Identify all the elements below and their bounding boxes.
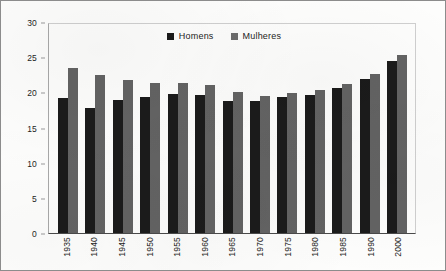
- x-tick-label: 1965: [227, 237, 237, 257]
- bar-group: [219, 24, 246, 233]
- bar: [68, 68, 78, 233]
- x-tick-label: 1970: [255, 237, 265, 257]
- bar: [250, 101, 260, 233]
- bar-group: [54, 24, 81, 233]
- legend-swatch-icon: [167, 33, 174, 40]
- x-tick-cell: 1950: [136, 235, 164, 271]
- y-tick-label: 25: [27, 53, 37, 63]
- bar-group: [246, 24, 273, 233]
- x-tick-cell: 1935: [53, 235, 81, 271]
- y-axis: 302520151050: [1, 1, 45, 271]
- legend-swatch-icon: [231, 33, 238, 40]
- y-tick-mark: [41, 128, 45, 129]
- bar-group: [274, 24, 301, 233]
- x-tick-cell: 1945: [108, 235, 136, 271]
- bar: [150, 83, 160, 234]
- bar: [387, 61, 397, 233]
- y-tick-mark: [41, 198, 45, 199]
- bar: [315, 90, 325, 233]
- bar: [123, 80, 133, 233]
- x-tick-cell: 1960: [191, 235, 219, 271]
- bars-layer: [49, 24, 415, 233]
- bar: [397, 55, 407, 233]
- y-tick-label: 20: [27, 88, 37, 98]
- y-tick-label: 0: [32, 229, 37, 239]
- y-tick-label: 30: [27, 18, 37, 28]
- y-tick-mark: [41, 23, 45, 24]
- bar: [195, 95, 205, 233]
- bar-group: [109, 24, 136, 233]
- bar: [332, 88, 342, 233]
- bar-group: [81, 24, 108, 233]
- y-tick-label: 10: [27, 159, 37, 169]
- x-tick-cell: 1985: [329, 235, 357, 271]
- bar: [95, 75, 105, 233]
- legend-entry: Homens: [167, 31, 214, 41]
- bar-group: [191, 24, 218, 233]
- y-tick-mark: [41, 93, 45, 94]
- bar: [168, 94, 178, 233]
- x-tick-label: 1945: [117, 237, 127, 257]
- bar: [277, 97, 287, 233]
- x-tick-cell: 1980: [301, 235, 329, 271]
- bar: [360, 79, 370, 233]
- x-axis: 1935194019451950195519601965197019751980…: [48, 235, 416, 271]
- bar-group: [384, 24, 411, 233]
- x-tick-label: 1990: [366, 237, 376, 257]
- bar-group: [356, 24, 383, 233]
- y-tick-label: 5: [32, 194, 37, 204]
- legend-entry: Mulheres: [231, 31, 282, 41]
- x-tick-cell: 1965: [219, 235, 247, 271]
- x-tick-cell: 1955: [163, 235, 191, 271]
- bar: [305, 95, 315, 233]
- bar: [287, 93, 297, 233]
- x-tick-label: 1960: [200, 237, 210, 257]
- bar: [370, 74, 380, 233]
- bar: [58, 98, 68, 233]
- x-tick-label: 1950: [145, 237, 155, 257]
- x-tick-label: 1940: [89, 237, 99, 257]
- bar: [178, 83, 188, 234]
- x-tick-label: 1985: [338, 237, 348, 257]
- bar-group: [301, 24, 328, 233]
- y-tick-mark: [41, 58, 45, 59]
- chart-legend: HomensMulheres: [1, 31, 446, 41]
- x-tick-cell: 1940: [81, 235, 109, 271]
- x-tick-cell: 1975: [274, 235, 302, 271]
- x-tick-cell: 1990: [357, 235, 385, 271]
- x-tick-label: 1935: [62, 237, 72, 257]
- plot-area: [48, 23, 416, 234]
- y-tick-mark: [41, 234, 45, 235]
- x-tick-label: 1955: [172, 237, 182, 257]
- y-tick-mark: [41, 163, 45, 164]
- y-tick-label: 15: [27, 124, 37, 134]
- bar: [223, 101, 233, 233]
- bar-group: [136, 24, 163, 233]
- bar: [205, 85, 215, 233]
- x-tick-cell: 2000: [384, 235, 412, 271]
- bar: [140, 97, 150, 233]
- bar: [342, 84, 352, 233]
- x-tick-label: 1980: [310, 237, 320, 257]
- bar: [113, 100, 123, 233]
- bar: [260, 96, 270, 233]
- x-tick-cell: 1970: [246, 235, 274, 271]
- x-tick-label: 1975: [283, 237, 293, 257]
- x-tick-label: 2000: [393, 237, 403, 257]
- chart-figure: 302520151050 HomensMulheres 193519401945…: [0, 0, 446, 271]
- legend-label: Homens: [179, 31, 214, 41]
- bar: [233, 92, 243, 233]
- bar: [85, 108, 95, 233]
- bar-group: [164, 24, 191, 233]
- legend-label: Mulheres: [243, 31, 282, 41]
- bar-group: [329, 24, 356, 233]
